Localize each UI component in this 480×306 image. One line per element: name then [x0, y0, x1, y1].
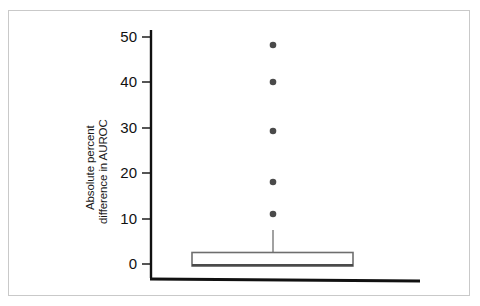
- y-tick-label-10: 10: [120, 210, 137, 227]
- y-tick-label-0: 0: [129, 255, 137, 272]
- figure-container: Absolute percent difference in AUROC 50 …: [0, 0, 480, 306]
- y-tick-label-30: 30: [120, 119, 137, 136]
- y-tick-label-40: 40: [120, 73, 137, 90]
- outlier-group: [270, 42, 277, 218]
- y-tick-label-20: 20: [120, 164, 137, 181]
- y-tick-marks: [142, 37, 150, 264]
- outlier-point: [270, 179, 277, 186]
- x-axis-spine: [150, 279, 420, 281]
- y-tick-label-group: 50 40 30 20 10 0: [120, 28, 137, 272]
- outlier-point: [270, 79, 277, 86]
- outlier-point: [270, 211, 277, 218]
- outlier-point: [270, 128, 277, 135]
- box-plot-svg: 50 40 30 20 10 0: [0, 0, 480, 306]
- y-tick-label-50: 50: [120, 28, 137, 45]
- box-iqr: [192, 253, 353, 267]
- outlier-point: [270, 42, 277, 49]
